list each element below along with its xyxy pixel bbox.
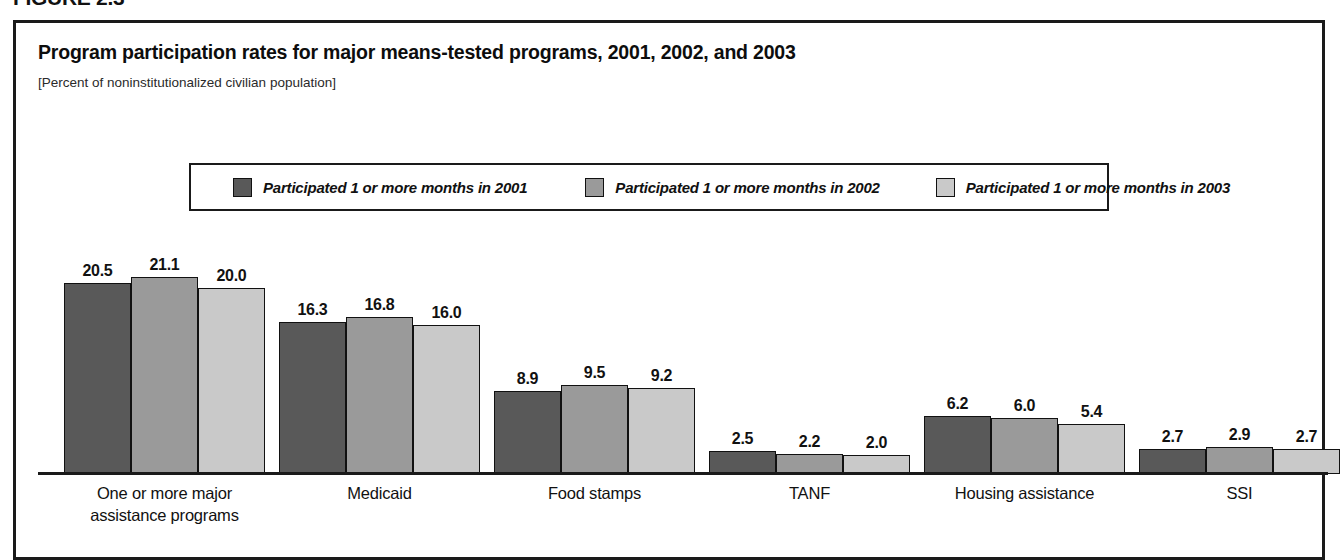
legend-swatch-2002 [585,178,604,197]
x-axis-labels: One or more majorassistance programsMedi… [38,482,1328,542]
bar-value-label: 2.7 [1162,429,1183,445]
bar-value-label: 2.5 [732,431,753,447]
bar [346,317,413,474]
bar-value-label: 16.8 [365,297,395,313]
bar-value-label: 6.0 [1014,398,1035,414]
bar [1139,449,1206,474]
bar [413,325,480,474]
chart-legend: Participated 1 or more months in 2001 Pa… [189,163,1109,211]
bar-item: 2.5 [709,219,776,474]
bar-value-label: 9.5 [584,365,605,381]
bar-item: 9.2 [628,219,695,474]
bar-value-label: 9.2 [651,368,672,384]
bar [1273,449,1340,474]
bar-item: 20.0 [198,219,265,474]
x-axis-label: One or more majorassistance programs [64,482,265,527]
figure-title: Program participation rates for major me… [38,41,796,64]
bar [1206,447,1273,474]
bar-item: 6.2 [924,219,991,474]
legend-swatch-2003 [936,178,955,197]
bar-item: 21.1 [131,219,198,474]
bar-group: 2.52.22.0 [709,219,910,474]
bar-item: 2.0 [843,219,910,474]
bar-item: 16.0 [413,219,480,474]
legend-label-2001: Participated 1 or more months in 2001 [263,179,527,196]
bar [709,451,776,474]
bar-value-label: 16.0 [432,305,462,321]
bar [924,416,991,474]
legend-entry-2002: Participated 1 or more months in 2002 [585,178,879,197]
legend-entry-2001: Participated 1 or more months in 2001 [233,178,527,197]
legend-label-2003: Participated 1 or more months in 2003 [966,179,1230,196]
legend-label-2002: Participated 1 or more months in 2002 [615,179,879,196]
bar-value-label: 2.2 [799,434,820,450]
figure-frame: Program participation rates for major me… [13,20,1325,560]
bar-value-label: 2.0 [866,435,887,451]
bar [198,288,265,474]
bar [776,454,843,475]
bar-group: 6.26.05.4 [924,219,1125,474]
x-axis-label: Medicaid [279,482,480,504]
chart-plot-area: 20.521.120.016.316.816.08.99.59.22.52.22… [38,219,1308,474]
bar-value-label: 2.7 [1296,429,1317,445]
x-axis-label: Housing assistance [924,482,1125,504]
bar-value-label: 20.0 [217,268,247,284]
bar-value-label: 6.2 [947,396,968,412]
bar-group: 2.72.92.7 [1139,219,1340,474]
bar-item: 5.4 [1058,219,1125,474]
bar-value-label: 21.1 [150,257,180,273]
bar [131,277,198,474]
bar-group: 20.521.120.0 [64,219,265,474]
bar-value-label: 16.3 [298,302,328,318]
x-axis-line [38,472,1328,475]
x-axis-label: TANF [709,482,910,504]
legend-entry-2003: Participated 1 or more months in 2003 [936,178,1230,197]
bar [628,388,695,474]
bar-value-label: 20.5 [83,263,113,279]
bar [64,283,131,474]
bar-item: 8.9 [494,219,561,474]
bar-value-label: 8.9 [517,371,538,387]
bar [561,385,628,474]
x-axis-label: Food stamps [494,482,695,504]
bar-item: 20.5 [64,219,131,474]
figure-number-label: FIGURE 2.3 [13,0,124,10]
bar-value-label: 5.4 [1081,404,1102,420]
bar-value-label: 2.9 [1229,427,1250,443]
bar-group: 16.316.816.0 [279,219,480,474]
bar-item: 6.0 [991,219,1058,474]
bar-item: 2.7 [1139,219,1206,474]
bar-item: 9.5 [561,219,628,474]
bar [991,418,1058,474]
bar-item: 2.7 [1273,219,1340,474]
bar-group: 8.99.59.2 [494,219,695,474]
bar-item: 16.8 [346,219,413,474]
bar [279,322,346,474]
bar-item: 2.2 [776,219,843,474]
bar-item: 16.3 [279,219,346,474]
bar [1058,424,1125,474]
figure-subtitle: [Percent of noninstitutionalized civilia… [38,75,336,90]
bar [494,391,561,474]
bar-item: 2.9 [1206,219,1273,474]
x-axis-label: SSI [1139,482,1340,504]
legend-swatch-2001 [233,178,252,197]
